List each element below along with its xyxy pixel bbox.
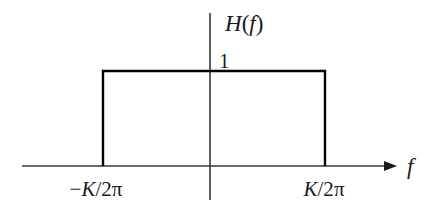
tick-left-over-two: /2 xyxy=(95,177,111,201)
tick-left-K: K xyxy=(80,177,96,201)
y-axis-label-paren-close: ) xyxy=(256,11,264,36)
amplitude-tick-label: 1 xyxy=(219,49,230,73)
tick-left-pi: π xyxy=(112,177,123,201)
tick-left-minus-sign: − xyxy=(70,177,82,201)
rectangular-response-curve xyxy=(103,71,325,166)
y-axis-label-H: H xyxy=(224,11,243,36)
tick-right-K: K xyxy=(303,177,319,201)
y-axis-label-paren-open: ( xyxy=(242,11,250,36)
x-axis-arrowhead xyxy=(384,161,397,171)
tick-right-pi: π xyxy=(334,177,345,201)
y-axis-label: H(f) xyxy=(224,11,263,36)
x-tick-label-left: −K/2π xyxy=(70,177,123,201)
x-axis-label: f xyxy=(407,154,417,179)
filter-response-figure: H(f) 1 −K/2π K/2π f xyxy=(0,0,444,211)
tick-right-over-two: /2 xyxy=(318,177,334,201)
x-tick-label-right: K/2π xyxy=(303,177,345,201)
